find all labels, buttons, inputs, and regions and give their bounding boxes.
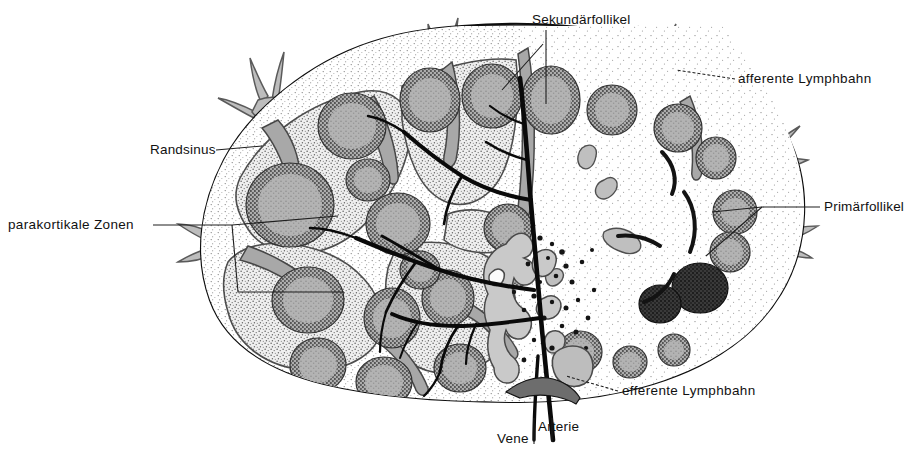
primary-follicle-labeled [710, 232, 750, 272]
secondary-follicle [346, 159, 390, 201]
label-sekundaerfollikel: Sekundärfollikel [532, 12, 631, 27]
secondary-follicle [318, 93, 386, 159]
secondary-follicle [356, 357, 412, 407]
secondary-follicle [654, 104, 702, 152]
secondary-follicle [658, 334, 690, 366]
primary-follicle-labeled [713, 190, 757, 234]
lymph-node-diagram [0, 0, 922, 462]
label-primaerfollikel: Primärfollikel [824, 199, 904, 214]
label-efferente-lymphbahn: efferente Lymphbahn [622, 383, 756, 398]
secondary-follicle [696, 137, 736, 179]
label-arterie: Arterie [538, 419, 579, 434]
secondary-follicle [587, 85, 637, 135]
lymph-node-figure: Sekundärfollikel afferente Lymphbahn Ran… [0, 0, 922, 462]
secondary-follicle-labeled [462, 64, 522, 128]
secondary-follicle [290, 338, 346, 392]
secondary-follicle-labeled [522, 66, 580, 134]
label-randsinus: Randsinus [150, 142, 216, 157]
secondary-follicle [613, 346, 647, 378]
label-parakortikale-zonen: parakortikale Zonen [8, 217, 134, 232]
label-afferente-lymphbahn: afferente Lymphbahn [738, 71, 872, 86]
secondary-follicle [400, 68, 460, 132]
label-vene: Vene [497, 431, 529, 446]
secondary-follicle [246, 163, 334, 247]
secondary-follicle [272, 267, 344, 333]
